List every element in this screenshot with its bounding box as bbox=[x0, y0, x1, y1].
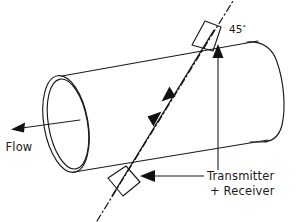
pipe-top-wall-line bbox=[62, 41, 258, 76]
transducer-leader-arrow-head bbox=[140, 170, 155, 182]
flow-direction-arrow bbox=[11, 120, 80, 133]
angle-leader-arrow bbox=[213, 44, 224, 170]
beam-arrow-down bbox=[162, 87, 176, 102]
pipe-far-end-curve bbox=[247, 42, 284, 142]
pipe-bottom-wall-line bbox=[74, 140, 268, 172]
upper-transducer-block bbox=[192, 21, 221, 51]
flow-arrow-head bbox=[11, 123, 25, 133]
pipe-outer-rim bbox=[36, 72, 96, 176]
flow-label: Flow bbox=[6, 140, 33, 154]
transducer-label-line2: + Receiver bbox=[210, 184, 275, 198]
transducer-label-line1: Transmitter bbox=[206, 169, 274, 183]
pipe-body bbox=[62, 41, 268, 172]
angle-label: 45° bbox=[229, 23, 246, 35]
flowmeter-diagram: Flow bbox=[0, 0, 298, 222]
diagram-canvas: Flow bbox=[0, 0, 298, 222]
lower-transducer-block bbox=[108, 166, 140, 196]
ultrasonic-beam-path bbox=[112, 30, 214, 196]
transducer-leader-arrow bbox=[140, 170, 204, 182]
pipe-open-end-ellipse bbox=[36, 72, 96, 176]
